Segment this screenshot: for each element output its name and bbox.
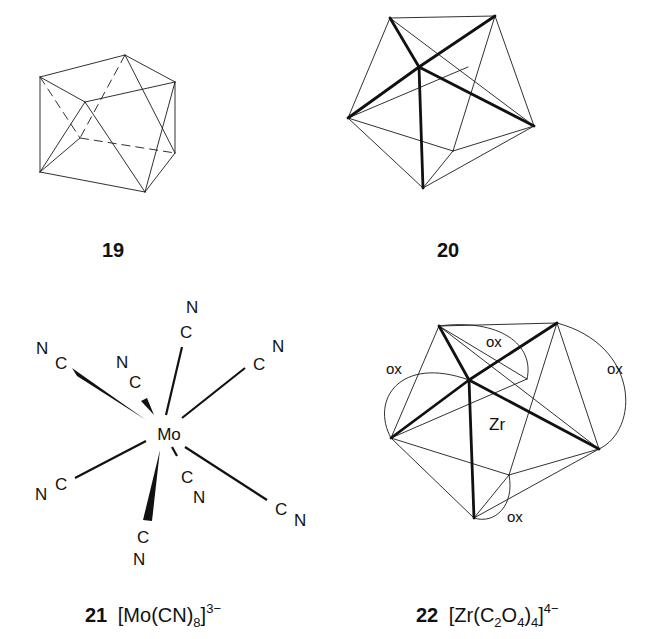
figure-label-19: 19 [102, 239, 124, 261]
atom-n: N [186, 298, 198, 317]
figure-canvas: 19 20 Mo [0, 0, 664, 639]
atom-c: C [55, 354, 67, 373]
atom-c: C [275, 500, 287, 519]
central-atom-mo: Mo [157, 425, 181, 444]
atom-c: C [137, 528, 149, 547]
atom-n: N [294, 511, 306, 530]
structure-21: Mo N C N C N C C N N C C N C N C N 21 [M… [35, 298, 306, 630]
atom-n: N [133, 550, 145, 569]
atom-c: C [129, 373, 141, 392]
atom-c: C [181, 468, 193, 487]
atom-n: N [193, 488, 205, 507]
polyhedron-20: 20 [348, 16, 534, 261]
atom-c: C [253, 355, 265, 374]
caption-22: 22 [Zr(C2O4)4]4− [416, 601, 559, 630]
ox-label: ox [386, 360, 402, 377]
atom-n: N [35, 485, 47, 504]
atom-c: C [55, 475, 67, 494]
ox-label: ox [607, 360, 623, 377]
caption-21: 21 [Mo(CN)8]3− [85, 601, 221, 630]
figure-label-20: 20 [437, 239, 459, 261]
structure-22: ox ox ox ox Zr 22 [Zr(C2O4)4]4− [384, 323, 625, 630]
wedge-bond [143, 450, 160, 521]
ox-label: ox [507, 508, 523, 525]
polyhedron-19: 19 [40, 55, 175, 261]
chelate-arc [474, 475, 510, 519]
atom-n: N [36, 339, 48, 358]
atom-n: N [272, 337, 284, 356]
chelate-arc [557, 323, 626, 449]
chelate-arc [384, 373, 469, 438]
atom-n: N [116, 353, 128, 372]
ox-label: ox [486, 333, 502, 350]
atom-c: C [180, 323, 192, 342]
wedge-bond [141, 398, 154, 415]
central-atom-zr: Zr [489, 415, 505, 434]
